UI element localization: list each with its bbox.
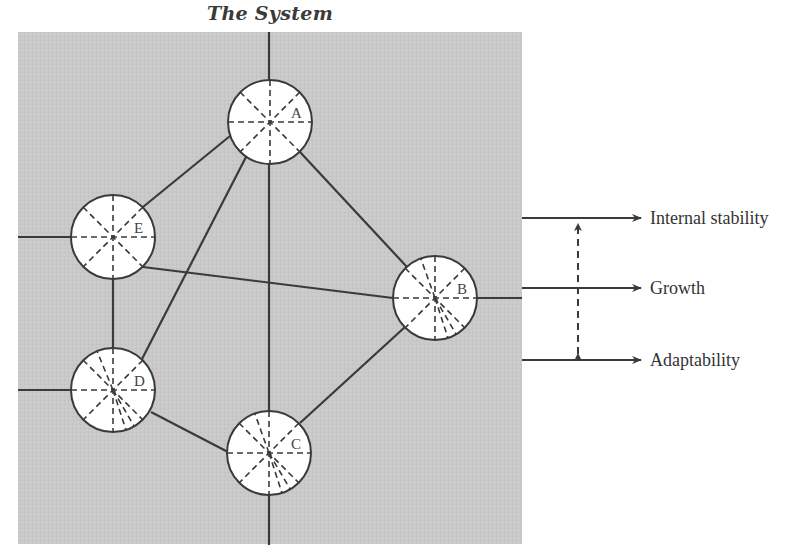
output-label-growth: Growth — [650, 278, 705, 298]
node-c: C — [227, 411, 311, 495]
output-label-adaptability: Adaptability — [650, 350, 740, 370]
node-d: D — [71, 348, 155, 432]
node-b: B — [393, 256, 477, 340]
output-label-internal-stability: Internal stability — [650, 208, 768, 228]
node-a: A — [228, 80, 312, 164]
node-e-label: E — [134, 220, 143, 236]
node-e: E — [71, 195, 155, 279]
node-a-label: A — [291, 105, 302, 121]
node-d-label: D — [134, 373, 145, 389]
node-c-label: C — [291, 436, 301, 452]
node-b-label: B — [457, 281, 467, 297]
